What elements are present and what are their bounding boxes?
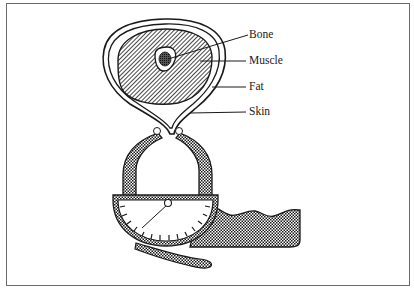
jaw-tip-right: [176, 128, 183, 135]
dial-pivot: [165, 200, 172, 207]
label-bone: Bone: [249, 29, 273, 41]
jaw-tip-left: [154, 128, 161, 135]
label-fat: Fat: [249, 81, 264, 93]
caliper-jaws: [123, 133, 212, 196]
label-skin: Skin: [249, 106, 270, 118]
label-muscle: Muscle: [249, 55, 283, 67]
skinfold-caliper-diagram: [0, 0, 414, 294]
skinfold-caliper: [113, 128, 300, 269]
cross-section: [103, 19, 225, 134]
